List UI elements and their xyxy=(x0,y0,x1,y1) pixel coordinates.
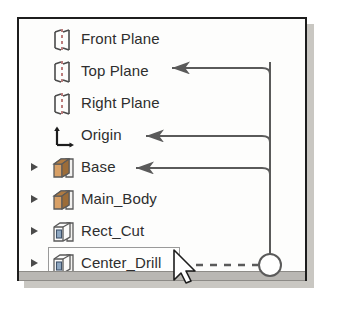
tree-item-right-plane[interactable]: Right Plane xyxy=(17,89,307,119)
tree-item-base[interactable]: Base xyxy=(17,153,307,183)
tree-item-top-plane[interactable]: Top Plane xyxy=(17,57,307,87)
tree-item-label: Rect_Cut xyxy=(81,220,144,242)
origin-axis-icon xyxy=(51,124,77,148)
tree-item-label: Right Plane xyxy=(81,92,160,114)
tree-item-label: Front Plane xyxy=(81,28,160,50)
tree-item-origin[interactable]: Origin xyxy=(17,121,307,151)
tree-item-label: Top Plane xyxy=(81,60,149,82)
chevron-right-icon[interactable] xyxy=(31,227,38,235)
cut-feature-icon xyxy=(51,220,77,244)
horizontal-scrollbar[interactable] xyxy=(19,271,305,281)
chevron-right-icon[interactable] xyxy=(31,195,38,203)
tree-item-main-body[interactable]: Main_Body xyxy=(17,185,307,215)
tree-item-label: Origin xyxy=(81,124,122,146)
solid-boss-icon xyxy=(51,188,77,212)
plane-icon xyxy=(51,92,77,116)
chevron-right-icon[interactable] xyxy=(31,163,38,171)
tree-item-label: Main_Body xyxy=(81,188,157,210)
tree-item-label: Base xyxy=(81,156,116,178)
feature-tree: Front PlaneTop PlaneRight PlaneOriginBas… xyxy=(17,17,307,281)
screenshot-root: Front PlaneTop PlaneRight PlaneOriginBas… xyxy=(0,0,340,310)
plane-icon xyxy=(51,28,77,52)
plane-icon xyxy=(51,60,77,84)
tree-item-rect-cut[interactable]: Rect_Cut xyxy=(17,217,307,247)
solid-boss-icon xyxy=(51,156,77,180)
chevron-right-icon[interactable] xyxy=(31,259,38,267)
tree-item-front-plane[interactable]: Front Plane xyxy=(17,25,307,55)
